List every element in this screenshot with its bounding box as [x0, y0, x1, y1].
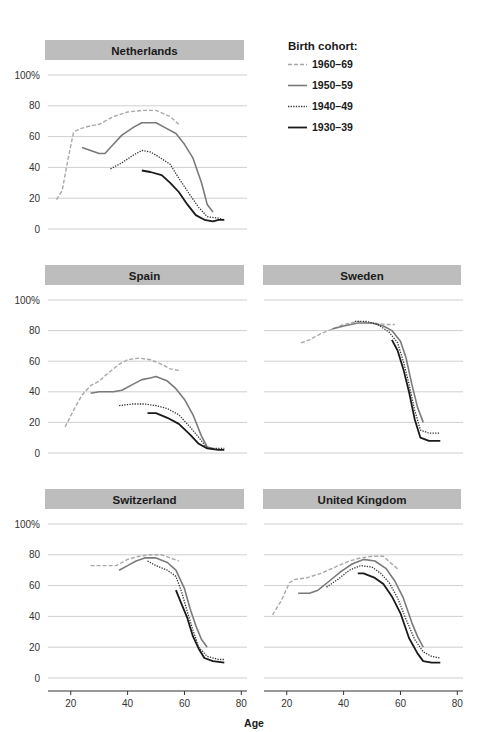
x-tick-label: 40 [122, 698, 134, 709]
y-tick-label: 20 [29, 193, 41, 204]
x-tick-label: 60 [179, 698, 191, 709]
panel-sweden: Sweden [263, 265, 463, 453]
x-tick-label: 80 [236, 698, 248, 709]
panel-united-kingdom: United Kingdom [263, 489, 463, 678]
y-tick-label: 0 [34, 448, 40, 459]
series-line-1950–59 [119, 558, 207, 647]
panel-title: Netherlands [111, 45, 177, 57]
series-line-1930–39 [358, 573, 441, 662]
x-tick-label: 20 [65, 698, 77, 709]
x-axis-label: Age [244, 717, 264, 729]
legend-label: 1940–49 [312, 100, 353, 112]
legend-label: 1930–39 [312, 121, 353, 133]
series-line-1940–49 [327, 566, 441, 658]
series-line-1930–39 [142, 171, 225, 222]
series-line-1940–49 [119, 404, 224, 448]
y-tick-label: 60 [29, 580, 41, 591]
panel-switzerland: Switzerland020406080100% [14, 489, 247, 684]
series-line-1960–69 [65, 358, 179, 427]
y-tick-label: 0 [34, 673, 40, 684]
series-line-1930–39 [392, 340, 440, 441]
y-tick-label: 80 [29, 100, 41, 111]
legend-label: 1960–69 [312, 58, 353, 70]
chart-panels: Netherlands020406080100%Spain02040608010… [14, 40, 463, 684]
x-tick-label: 60 [395, 698, 407, 709]
y-tick-label: 40 [29, 386, 41, 397]
y-tick-label: 40 [29, 611, 41, 622]
panel-spain: Spain020406080100% [14, 265, 247, 459]
y-tick-label: 80 [29, 325, 41, 336]
panel-title: United Kingdom [318, 494, 407, 506]
x-tick-label: 80 [452, 698, 464, 709]
panel-netherlands: Netherlands020406080100% [14, 40, 247, 235]
x-tick-label: 20 [281, 698, 293, 709]
series-line-1960–69 [91, 555, 179, 566]
y-tick-label: 20 [29, 642, 41, 653]
series-line-1940–49 [111, 151, 225, 220]
y-tick-label: 100% [14, 519, 40, 530]
series-line-1940–49 [148, 561, 225, 660]
small-multiples-chart: Netherlands020406080100%Spain02040608010… [0, 0, 489, 732]
y-tick-label: 80 [29, 549, 41, 560]
panel-title: Spain [129, 270, 160, 282]
y-tick-label: 20 [29, 417, 41, 428]
legend-label: 1950–59 [312, 79, 353, 91]
series-line-1960–69 [57, 110, 179, 199]
x-tick-label: 40 [338, 698, 350, 709]
panel-title: Sweden [340, 270, 383, 282]
y-tick-label: 100% [14, 295, 40, 306]
series-line-1950–59 [332, 323, 423, 422]
y-tick-label: 0 [34, 224, 40, 235]
x-axes: 2040608020406080 [48, 691, 463, 709]
y-tick-label: 60 [29, 131, 41, 142]
panel-title: Switzerland [113, 494, 177, 506]
series-line-1930–39 [176, 590, 224, 662]
y-tick-label: 40 [29, 162, 41, 173]
legend: Birth cohort:1960–691950–591940–491930–3… [288, 40, 358, 133]
legend-title: Birth cohort: [288, 40, 358, 52]
y-tick-label: 60 [29, 356, 41, 367]
y-tick-label: 100% [14, 70, 40, 81]
series-line-1930–39 [148, 413, 225, 450]
